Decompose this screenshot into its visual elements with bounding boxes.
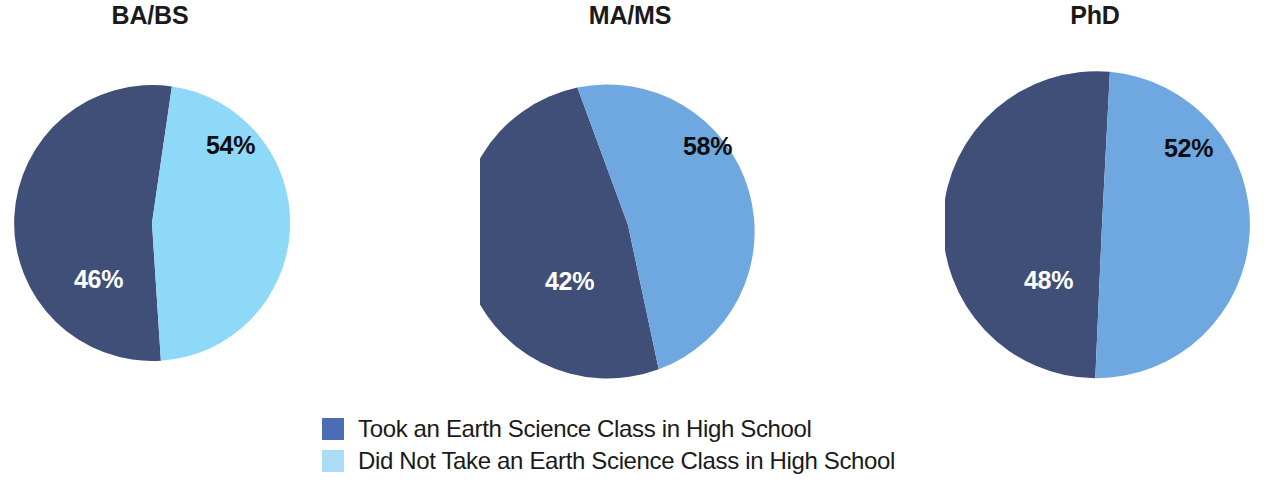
pie-svg-ba-bs: [8, 50, 296, 400]
pie-slice-light-phd: [1095, 72, 1250, 378]
pie-title-ba-bs: BA/BS: [0, 0, 300, 30]
legend-swatch-did-not-take-class: [322, 450, 344, 472]
pie-slice-light-ba-bs: [152, 86, 290, 360]
legend-item-did-not-take-class: Did Not Take an Earth Science Class in H…: [322, 446, 895, 476]
legend-label-did-not-take-class: Did Not Take an Earth Science Class in H…: [358, 448, 895, 474]
pie-svg-ma-ms: [480, 52, 780, 402]
pie-chart-figure: BA/BS 54% 46% MA/MS 58% 42% PhD: [0, 0, 1272, 485]
pie-value-label-light-phd: 52%: [1164, 136, 1213, 161]
pie-panel-ba-bs: BA/BS 54% 46%: [0, 0, 300, 410]
pie-value-label-dark-ba-bs: 46%: [74, 267, 123, 292]
pie-value-label-dark-phd: 48%: [1024, 268, 1073, 293]
legend-label-took-class: Took an Earth Science Class in High Scho…: [358, 416, 812, 442]
pie-value-label-light-ma-ms: 58%: [683, 134, 732, 159]
pie-value-label-light-ba-bs: 54%: [206, 133, 255, 158]
pie-value-label-dark-ma-ms: 42%: [545, 269, 594, 294]
pie-slice-dark-ba-bs: [14, 85, 172, 361]
pie-title-phd: PhD: [945, 0, 1245, 30]
legend-swatch-took-class: [322, 418, 344, 440]
pie-slice-dark-phd: [945, 71, 1110, 378]
pie-title-ma-ms: MA/MS: [480, 0, 780, 30]
legend-item-took-class: Took an Earth Science Class in High Scho…: [322, 414, 895, 444]
pie-svg-phd: [945, 52, 1261, 402]
chart-legend: Took an Earth Science Class in High Scho…: [322, 414, 895, 478]
pie-panel-phd: PhD 52% 48%: [945, 0, 1265, 410]
pie-panel-ma-ms: MA/MS 58% 42%: [480, 0, 780, 410]
